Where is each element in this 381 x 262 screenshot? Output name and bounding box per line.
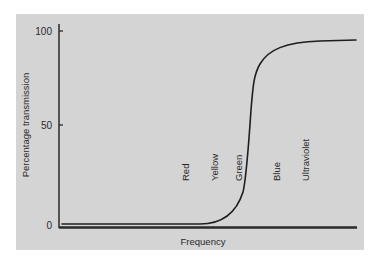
- band-label-blue: Blue: [271, 162, 282, 181]
- y-axis-title: Percentage transmission: [20, 73, 31, 178]
- chart-panel: [16, 14, 364, 250]
- y-tick-label-100: 100: [35, 26, 52, 37]
- x-axis-title: Frequency: [181, 236, 226, 247]
- band-label-red: Red: [180, 164, 191, 181]
- transmission-chart: 100 50 0 Percentage transmission Frequen…: [0, 0, 381, 262]
- y-tick-label-0: 0: [46, 220, 52, 231]
- y-tick-label-50: 50: [41, 120, 53, 131]
- band-label-ultraviolet: Ultraviolet: [300, 138, 311, 181]
- band-label-green: Green: [233, 155, 244, 181]
- band-label-yellow: Yellow: [209, 154, 220, 181]
